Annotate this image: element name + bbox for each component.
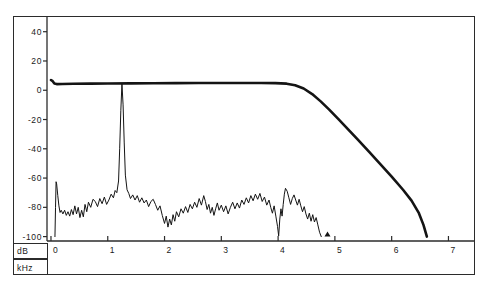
y-tick-label: -20 [14, 115, 42, 125]
x-tick-marks [51, 236, 448, 241]
y-tick-label: -40 [14, 144, 42, 154]
chart-canvas [0, 0, 492, 283]
x-tick-label: 0 [53, 245, 58, 255]
y-tick-label: 40 [14, 27, 42, 37]
y-tick-label: -80 [14, 202, 42, 212]
y-tick-label: 20 [14, 56, 42, 66]
x-tick-label: 1 [110, 245, 115, 255]
data-series-layer [51, 80, 427, 237]
x-tick-label: 7 [450, 245, 455, 255]
cursor-marker [325, 232, 331, 237]
series-filter-response [51, 80, 427, 237]
x-tick-label: 4 [280, 245, 285, 255]
x-tick-label: 6 [394, 245, 399, 255]
y-tick-label: -60 [14, 173, 42, 183]
series-noise-floor [55, 84, 321, 237]
x-tick-label: 2 [167, 245, 172, 255]
x-tick-label: 3 [223, 245, 228, 255]
annotation-layer [325, 232, 331, 237]
y-tick-label: -100 [14, 232, 42, 242]
axis-lines [47, 16, 474, 241]
y-tick-label: 0 [14, 85, 42, 95]
x-tick-label: 5 [337, 245, 342, 255]
spectrum-analyzer-figure: dB kHz 40200-20-40-60-80-100 01234567 [0, 0, 492, 283]
